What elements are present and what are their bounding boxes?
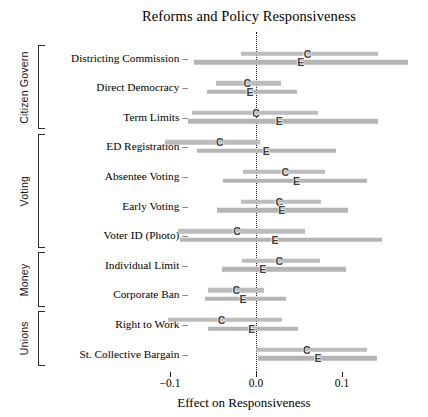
estimate-marker-e: E — [276, 116, 283, 127]
estimate-marker-c: C — [304, 48, 312, 59]
estimate-marker-e: E — [271, 234, 278, 245]
x-axis-tick-label: 0.0 — [249, 377, 263, 389]
plot-area: CECECECECECECECECECECE−0.10.00.1 — [0, 0, 428, 417]
x-axis-tick-label: 0.1 — [335, 377, 349, 389]
estimate-marker-e: E — [278, 205, 285, 216]
estimate-marker-c: C — [275, 255, 283, 266]
estimate-marker-e: E — [314, 353, 321, 364]
confidence-interval-bar — [180, 237, 382, 242]
estimate-marker-e: E — [263, 146, 270, 157]
confidence-interval-bar — [222, 267, 347, 272]
estimate-marker-c: C — [303, 344, 311, 355]
x-axis-tick-label: −0.1 — [160, 377, 181, 389]
confidence-interval-bar — [188, 119, 378, 124]
estimate-marker-e: E — [248, 323, 255, 334]
confidence-interval-bar — [256, 347, 367, 352]
estimate-marker-e: E — [240, 294, 247, 305]
estimate-marker-c: C — [233, 226, 241, 237]
estimate-marker-c: C — [252, 107, 260, 118]
x-axis-title: Effect on Responsiveness — [0, 395, 428, 411]
estimate-marker-e: E — [293, 175, 300, 186]
estimate-marker-c: C — [216, 137, 224, 148]
estimate-marker-e: E — [259, 264, 266, 275]
estimate-marker-c: C — [218, 315, 226, 326]
estimate-marker-e: E — [246, 86, 253, 97]
confidence-interval-bar — [178, 229, 305, 234]
confidence-interval-bar — [165, 140, 260, 145]
chart-root: Reforms and Policy Responsiveness Citize… — [0, 0, 428, 417]
estimate-marker-c: C — [281, 167, 289, 178]
estimate-marker-e: E — [297, 57, 304, 68]
